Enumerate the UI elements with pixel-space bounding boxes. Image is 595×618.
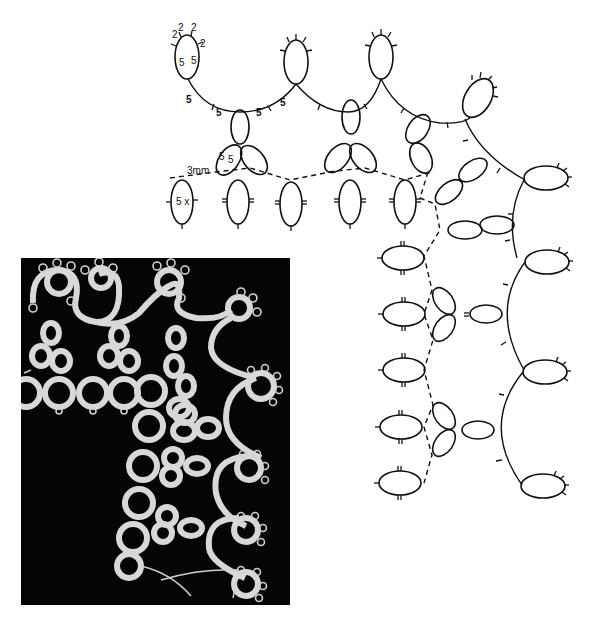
row-ring-3 <box>275 182 307 231</box>
diagonal-ring <box>480 216 514 234</box>
left-col-ring-4 <box>375 410 422 444</box>
left-col-ring-1 <box>377 241 424 275</box>
ds-count-label: 5 <box>256 107 262 118</box>
left-col-ring-2 <box>378 297 425 331</box>
chain-right <box>507 262 525 370</box>
chain-right <box>512 180 524 258</box>
lace-photo-image <box>21 258 290 605</box>
ds-count-label: 5 <box>186 94 192 105</box>
hanging-ring <box>342 100 360 134</box>
ds-count-label: 5 <box>280 97 286 108</box>
repeat-label: 5 x <box>176 196 189 207</box>
picot-count-label: 2 <box>191 22 197 33</box>
clover-vertical-2 <box>428 399 460 461</box>
corner-ring-1 <box>456 72 500 123</box>
lace-photograph <box>21 258 290 605</box>
left-col-ring-5 <box>374 466 421 500</box>
ds-count-label: 5 <box>191 55 197 66</box>
right-ring-4 <box>521 471 569 498</box>
thread-gap-label: 3mm <box>187 165 209 176</box>
picot-count-label: 2 <box>200 38 206 49</box>
ds-count-label: 5 <box>216 107 222 118</box>
left-col-ring-3 <box>378 353 425 387</box>
row-ring-2 <box>222 180 254 229</box>
right-ring-2 <box>525 247 573 274</box>
chain-2 <box>296 79 381 112</box>
right-ring-3 <box>523 357 571 384</box>
hanging-ring <box>231 110 249 144</box>
clover-3 <box>401 110 437 177</box>
thread-path <box>170 168 432 180</box>
top-ring-3 <box>365 29 397 79</box>
row-ring-5 <box>389 180 421 229</box>
right-ring-1 <box>524 163 572 190</box>
middle-ring <box>462 421 494 439</box>
ds-count-label: 5 <box>219 151 225 162</box>
ds-count-label: 5 <box>228 154 234 165</box>
pattern-page: 2 2 2 2 5 5 5 5 <box>0 0 595 618</box>
clover-vertical-1 <box>428 284 460 346</box>
row-ring-4 <box>334 180 366 229</box>
diagonal-ring <box>448 221 482 239</box>
chain-3 <box>381 79 470 123</box>
middle-ring <box>470 305 502 323</box>
top-ring-2 <box>280 34 312 84</box>
chain-corner <box>465 119 525 180</box>
chain-right <box>501 372 523 485</box>
ds-count-label: 5 <box>179 57 185 68</box>
picot-count-label: 2 <box>178 22 184 33</box>
